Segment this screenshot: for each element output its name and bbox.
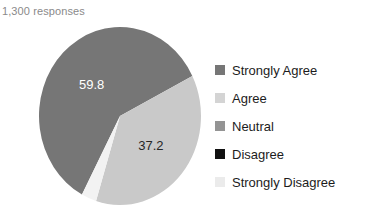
pie-slices <box>39 27 201 205</box>
pie-chart-figure: y 1,300 responses 59.837.2 Strongly Agre… <box>0 0 369 217</box>
pie-slice-data-label: 59.8 <box>79 77 104 92</box>
chart-legend: Strongly AgreeAgreeNeutralDisagreeStrong… <box>215 56 365 196</box>
legend-item[interactable]: Agree <box>215 84 365 112</box>
legend-color-swatch <box>215 149 225 159</box>
chart-subtitle: 1,300 responses <box>2 5 85 17</box>
legend-item-label: Agree <box>232 92 267 105</box>
legend-item-label: Disagree <box>232 148 284 161</box>
legend-item-label: Neutral <box>232 120 274 133</box>
legend-item-label: Strongly Disagree <box>232 176 335 189</box>
pie-plot-area: 59.837.2 <box>38 25 202 207</box>
legend-item[interactable]: Neutral <box>215 112 365 140</box>
pie-svg: 59.837.2 <box>38 25 202 207</box>
legend-item-label: Strongly Agree <box>232 64 317 77</box>
legend-color-swatch <box>215 177 225 187</box>
legend-color-swatch <box>215 93 225 103</box>
legend-item[interactable]: Strongly Disagree <box>215 168 365 196</box>
legend-item[interactable]: Strongly Agree <box>215 56 365 84</box>
legend-color-swatch <box>215 65 225 75</box>
pie-slice-data-label: 37.2 <box>138 138 163 153</box>
legend-item[interactable]: Disagree <box>215 140 365 168</box>
legend-color-swatch <box>215 121 225 131</box>
